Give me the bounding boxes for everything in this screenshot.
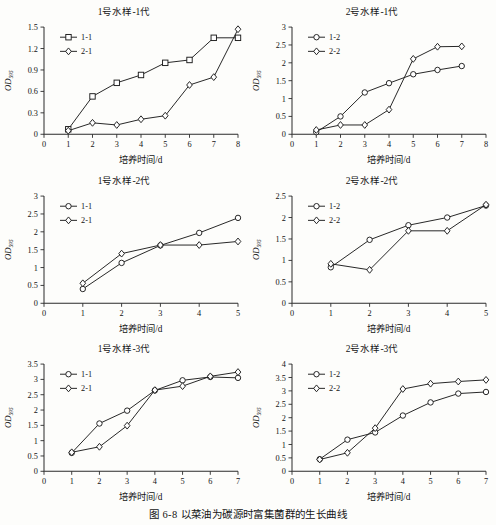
legend-label: 1-1 — [81, 202, 92, 211]
data-point-2-2 — [444, 227, 450, 234]
chart-title: 1号水样-1代 — [98, 4, 151, 18]
legend-item-2-1[interactable]: 2-1 — [60, 385, 92, 394]
legend-item-1-2[interactable]: 1-2 — [308, 33, 340, 42]
y-tick-label: 1.5 — [276, 77, 286, 86]
y-tick-label: 0.5 — [28, 281, 38, 290]
data-point-2-2 — [483, 377, 489, 384]
legend-item-1-2[interactable]: 1-2 — [308, 371, 340, 380]
plot-area: 01234500.511.522.5OD595培养时间/d1-22-2 — [248, 188, 496, 338]
y-tick-label: 3 — [282, 23, 286, 32]
plot-area: 01234567800.511.522.53OD595培养时间/d1-22-2 — [248, 19, 496, 169]
legend-item-1-1[interactable]: 1-1 — [60, 202, 92, 211]
y-tick-label: 2 — [282, 414, 286, 423]
x-tick-label: 2 — [345, 478, 349, 487]
data-point-1-1 — [211, 35, 216, 40]
x-tick-label: 7 — [484, 478, 488, 487]
chart-title: 2号水样-3代 — [346, 341, 399, 355]
data-point-2-1 — [235, 369, 241, 376]
data-point-2-1 — [180, 383, 186, 390]
chart-panel-1: 1号水样-1代 01234567800.30.60.91.21.5OD595培养… — [0, 0, 248, 169]
data-point-2-1 — [114, 122, 120, 129]
legend-label: 2-1 — [81, 47, 92, 56]
y-tick-label: 0 — [282, 299, 286, 308]
chart-panel-3: 1号水样-2代 01234500.511.522.53OD595培养时间/d1-… — [0, 169, 248, 338]
data-point-1-1 — [97, 421, 102, 426]
y-tick-label: 2 — [282, 213, 286, 222]
data-point-2-1 — [138, 116, 144, 123]
y-tick-label: 1.5 — [28, 245, 38, 254]
x-tick-label: 5 — [236, 309, 240, 318]
x-tick-label: 4 — [153, 478, 158, 487]
y-tick-label: 0.5 — [276, 454, 286, 463]
x-tick-label: 6 — [435, 140, 439, 149]
series-line-2-1 — [68, 29, 238, 130]
legend-item-2-2[interactable]: 2-2 — [308, 385, 340, 394]
y-tick-label: 0 — [34, 130, 38, 139]
data-point-1-1 — [90, 94, 95, 99]
legend-marker-circle — [66, 372, 71, 377]
y-tick-label: 0.5 — [28, 452, 38, 461]
data-point-2-1 — [80, 280, 86, 287]
y-tick-label: 1 — [282, 95, 286, 104]
legend-marker-diamond — [314, 217, 320, 224]
data-point-1-2 — [428, 400, 433, 405]
chart-panel-5: 1号水样-3代 0123456700.511.522.533.5OD595培养时… — [0, 337, 248, 506]
y-tick-label: 3 — [34, 376, 38, 385]
x-tick-label: 0 — [290, 140, 294, 149]
legend-item-2-1[interactable]: 2-1 — [60, 216, 92, 225]
y-tick-label: 3.5 — [276, 374, 286, 383]
legend-item-1-2[interactable]: 1-2 — [308, 202, 340, 211]
data-point-2-2 — [435, 43, 441, 50]
y-tick-label: 0.5 — [276, 112, 286, 121]
data-point-2-1 — [211, 74, 217, 81]
x-tick-label: 1 — [329, 309, 333, 318]
plot-area: 0123456700.511.522.533.5OD595培养时间/d1-12-… — [0, 356, 248, 506]
legend-item-1-1[interactable]: 1-1 — [60, 371, 92, 380]
data-point-2-1 — [90, 119, 96, 126]
data-point-1-2 — [456, 391, 461, 396]
x-tick-label: 0 — [42, 140, 46, 149]
x-tick-label: 2 — [368, 309, 372, 318]
y-tick-label: 1.5 — [276, 427, 286, 436]
plot-area: 01234500.511.522.53OD595培养时间/d1-12-1 — [0, 188, 248, 338]
legend-label: 1-1 — [81, 33, 92, 42]
series-line-2-1 — [72, 372, 238, 452]
data-point-2-2 — [455, 378, 461, 385]
legend-label: 1-2 — [329, 371, 340, 380]
data-point-1-1 — [197, 230, 202, 235]
y-tick-label: 0 — [34, 299, 38, 308]
data-point-2-1 — [235, 26, 241, 33]
chart-title: 1号水样-3代 — [98, 341, 151, 355]
x-tick-label: 5 — [428, 478, 432, 487]
x-axis-label: 培养时间/d — [367, 154, 410, 165]
y-axis-label: OD595 — [3, 239, 14, 260]
legend-item-2-2[interactable]: 2-2 — [308, 47, 340, 56]
y-axis-label: OD595 — [251, 407, 262, 428]
x-tick-label: 4 — [445, 309, 450, 318]
y-tick-label: 2.5 — [28, 391, 38, 400]
legend-marker-diamond — [314, 385, 320, 392]
data-point-1-1 — [235, 215, 240, 220]
y-tick-label: 3 — [282, 387, 286, 396]
x-tick-label: 3 — [373, 478, 377, 487]
series-line-1-2 — [331, 205, 486, 267]
legend-item-1-1[interactable]: 1-1 — [60, 33, 92, 42]
y-tick-label: 0.5 — [276, 277, 286, 286]
x-tick-label: 5 — [163, 140, 167, 149]
legend-label: 2-2 — [329, 47, 340, 56]
plot-area: 0123456700.511.522.533.54OD595培养时间/d1-22… — [248, 356, 496, 506]
legend-label: 1-2 — [329, 33, 340, 42]
y-tick-label: 2 — [282, 59, 286, 68]
series-line-1-2 — [316, 66, 462, 132]
data-point-2-1 — [235, 238, 241, 245]
y-tick-label: 1 — [282, 441, 286, 450]
figure-container: 1号水样-1代 01234567800.30.60.91.21.5OD595培养… — [0, 0, 496, 525]
x-tick-label: 5 — [484, 309, 488, 318]
x-tick-label: 3 — [363, 140, 367, 149]
legend-marker-circle — [314, 34, 319, 39]
y-tick-label: 1 — [34, 437, 38, 446]
legend-item-2-2[interactable]: 2-2 — [308, 216, 340, 225]
chart-grid: 1号水样-1代 01234567800.30.60.91.21.5OD595培养… — [0, 0, 496, 506]
legend-item-2-1[interactable]: 2-1 — [60, 47, 92, 56]
x-tick-label: 3 — [406, 309, 410, 318]
